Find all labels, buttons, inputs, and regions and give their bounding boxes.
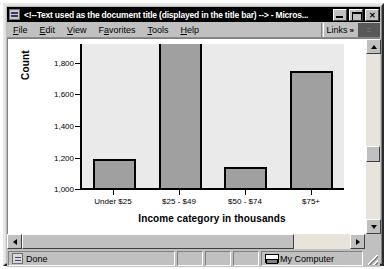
scrollbar-corner xyxy=(365,234,380,249)
window-inner-frame: <!--Text used as the document title (dis… xyxy=(5,5,382,264)
status-panel-3 xyxy=(205,251,231,266)
bar-chart: Count 1,800 1,600 1,400 1,200 1,000 xyxy=(14,42,344,230)
title-bar[interactable]: <!--Text used as the document title (dis… xyxy=(7,7,380,22)
close-button[interactable]: ✕ xyxy=(365,9,379,21)
vertical-scroll-track[interactable] xyxy=(366,54,380,219)
links-label: Links xyxy=(327,25,348,35)
bar[interactable] xyxy=(224,167,267,188)
menu-bar: File Edit View Favorites Tools Help Link… xyxy=(7,22,380,38)
status-bar: Done My Computer xyxy=(7,249,380,267)
vertical-scrollbar[interactable] xyxy=(365,39,380,234)
bar-series xyxy=(82,44,344,188)
scroll-right-button[interactable] xyxy=(350,234,365,249)
window-controls: ✕ xyxy=(333,9,379,21)
computer-icon xyxy=(265,254,277,264)
menu-bar-right: Links » :: xyxy=(320,22,380,37)
menu-label-file: ile xyxy=(19,25,28,35)
menu-item-tools[interactable]: Tools xyxy=(141,24,174,36)
up-arrow-icon xyxy=(371,45,377,49)
scroll-left-button[interactable] xyxy=(7,234,22,249)
bar-slot xyxy=(82,44,148,188)
maximize-button[interactable] xyxy=(349,9,363,21)
bar[interactable] xyxy=(93,159,136,188)
x-tick-label: $25 - $49 xyxy=(146,197,212,206)
chevron-right-icon: » xyxy=(350,26,354,35)
menu-item-view[interactable]: View xyxy=(61,24,92,36)
x-tick-mark xyxy=(278,190,344,195)
browser-window: <!--Text used as the document title (dis… xyxy=(3,3,384,266)
bar[interactable] xyxy=(159,44,202,188)
menu-label-tools: ools xyxy=(152,25,169,35)
x-axis-labels: Under $25 $25 - $49 $50 - $74 $75+ xyxy=(80,197,344,206)
document-canvas: Count 1,800 1,600 1,400 1,200 1,000 xyxy=(8,39,365,234)
links-button[interactable]: Links » xyxy=(325,25,356,35)
menu-item-edit[interactable]: Edit xyxy=(34,24,62,36)
bar[interactable] xyxy=(290,71,333,188)
minimize-button[interactable] xyxy=(333,9,347,21)
status-panel-2 xyxy=(177,251,203,266)
x-tick-label: Under $25 xyxy=(80,197,146,206)
horizontal-scrollbar[interactable] xyxy=(7,234,380,249)
bar-slot xyxy=(279,44,345,188)
menu-label-favorites: vorites xyxy=(109,25,136,35)
toolbar-separator xyxy=(321,23,324,37)
x-tick-label: $50 - $74 xyxy=(212,197,278,206)
y-tick-label: 1,200 xyxy=(54,154,74,163)
y-tick-label: 1,600 xyxy=(54,90,74,99)
vertical-scroll-thumb[interactable] xyxy=(366,146,380,162)
x-tick-mark xyxy=(80,190,146,195)
menu-item-favorites[interactable]: Favorites xyxy=(92,24,141,36)
resize-grip[interactable] xyxy=(365,251,379,266)
y-tick-label: 1,000 xyxy=(54,185,74,194)
bar-slot xyxy=(213,44,279,188)
scroll-down-button[interactable] xyxy=(366,219,381,234)
window-title: <!--Text used as the document title (dis… xyxy=(24,10,329,20)
plot-area xyxy=(80,44,344,190)
security-zone-panel[interactable]: My Computer xyxy=(261,251,363,266)
security-zone-label: My Computer xyxy=(280,254,334,264)
bar-slot xyxy=(148,44,214,188)
horizontal-scroll-track[interactable] xyxy=(22,234,350,249)
overflow-dots-icon: :: xyxy=(367,26,371,33)
x-axis-title: Income category in thousands xyxy=(80,213,344,224)
menu-item-file[interactable]: File xyxy=(7,24,34,36)
horizontal-scroll-thumb[interactable] xyxy=(22,234,294,249)
menu-label-help: elp xyxy=(187,25,199,35)
document-icon xyxy=(12,253,23,264)
menu-item-help[interactable]: Help xyxy=(174,24,205,36)
status-message-panel: Done xyxy=(8,251,175,266)
status-panel-4 xyxy=(233,251,259,266)
status-message: Done xyxy=(26,254,48,264)
y-axis: 1,800 1,600 1,400 1,200 1,000 xyxy=(32,42,80,230)
x-tick-mark xyxy=(212,190,278,195)
menu-label-edit: dit xyxy=(46,25,56,35)
y-tick-label: 1,400 xyxy=(54,122,74,131)
menu-label-view: iew xyxy=(73,25,87,35)
left-arrow-icon xyxy=(13,239,17,245)
x-axis-ticks xyxy=(80,190,344,195)
x-tick-label: $75+ xyxy=(278,197,344,206)
toolbar-overflow[interactable]: :: xyxy=(358,23,380,37)
scroll-up-button[interactable] xyxy=(366,39,381,54)
y-tick-label: 1,800 xyxy=(54,59,74,68)
document-content-area: Count 1,800 1,600 1,400 1,200 1,000 xyxy=(7,38,380,234)
down-arrow-icon xyxy=(371,225,377,229)
right-arrow-icon xyxy=(356,239,360,245)
y-axis-title: Count xyxy=(20,50,31,80)
x-tick-mark xyxy=(146,190,212,195)
ie-document-icon xyxy=(9,9,20,20)
